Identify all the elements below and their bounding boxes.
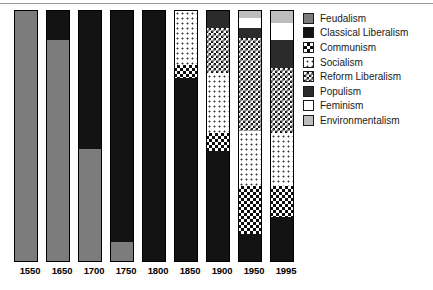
legend-label-socialism: Socialism [320,57,363,68]
legend-item-communism[interactable]: Communism [303,40,431,55]
bar-1650 [46,10,70,262]
segment-classical-liberalism [270,217,294,262]
plot-area [14,10,302,262]
bar-group [14,10,302,262]
segment-reform-liberalism [238,38,262,131]
x-tick-1550: 1550 [14,264,46,280]
segment-communism [238,186,262,234]
segment-populism [238,28,262,38]
segment-communism [206,133,230,151]
bar-column-1800 [142,10,174,262]
segment-socialism [270,133,294,186]
x-tick-1750: 1750 [110,264,142,280]
bar-1800 [142,10,166,262]
segment-feudalism [14,10,38,262]
legend-label-feminism: Feminism [320,100,363,111]
legend-item-environmentalism[interactable]: Environmentalism [303,113,431,128]
segment-feudalism [78,149,102,262]
bar-1850 [174,10,198,262]
top-divider [0,3,433,4]
legend-swatch-feminism-icon [303,100,314,111]
segment-classical-liberalism [46,10,70,40]
segment-socialism [174,10,198,65]
segment-reform-liberalism [270,68,294,134]
x-tick-1700: 1700 [78,264,110,280]
bar-1900 [206,10,230,262]
stacked-bar-chart: 155016501700175018001850190019501995 Feu… [0,0,433,290]
legend-label-feudalism: Feudalism [320,13,366,24]
bar-1700 [78,10,102,262]
segment-environmentalism [270,10,294,23]
legend-swatch-communism-icon [303,42,314,53]
legend-item-feudalism[interactable]: Feudalism [303,11,431,26]
segment-reform-liberalism [206,28,230,73]
bar-column-1900 [206,10,238,262]
bar-column-1750 [110,10,142,262]
x-tick-1995: 1995 [270,264,302,280]
bar-1750 [110,10,134,262]
legend-swatch-environmentalism-icon [303,115,314,126]
legend-item-populism[interactable]: Populism [303,84,431,99]
legend-swatch-reform-liberalism-icon [303,71,314,82]
bar-column-1995 [270,10,302,262]
segment-environmentalism [238,10,262,18]
segment-communism [174,65,198,78]
bar-1950 [238,10,262,262]
segment-socialism [238,131,262,186]
x-tick-1800: 1800 [142,264,174,280]
segment-feminism [238,18,262,28]
bar-column-1950 [238,10,270,262]
segment-classical-liberalism [174,78,198,262]
x-tick-1650: 1650 [46,264,78,280]
chart-legend: FeudalismClassical LiberalismCommunismSo… [303,11,431,128]
segment-classical-liberalism [78,10,102,149]
segment-feudalism [46,40,70,262]
legend-label-communism: Communism [320,42,376,53]
bar-column-1650 [46,10,78,262]
bar-column-1550 [14,10,46,262]
legend-item-feminism[interactable]: Feminism [303,99,431,114]
bar-column-1700 [78,10,110,262]
legend-label-reform-liberalism: Reform Liberalism [320,71,401,82]
segment-feudalism [110,242,134,262]
segment-classical-liberalism [238,234,262,262]
legend-label-populism: Populism [320,86,361,97]
legend-swatch-feudalism-icon [303,13,314,24]
segment-classical-liberalism [142,10,166,262]
legend-swatch-socialism-icon [303,57,314,68]
bar-1550 [14,10,38,262]
segment-classical-liberalism [110,10,134,242]
legend-item-reform-liberalism[interactable]: Reform Liberalism [303,69,431,84]
x-tick-1950: 1950 [238,264,270,280]
bar-1995 [270,10,294,262]
legend-label-classical-liberalism: Classical Liberalism [320,27,408,38]
segment-classical-liberalism [206,151,230,262]
legend-item-classical-liberalism[interactable]: Classical Liberalism [303,26,431,41]
segment-feminism [270,23,294,41]
legend-item-socialism[interactable]: Socialism [303,55,431,70]
segment-socialism [206,73,230,133]
x-tick-1850: 1850 [174,264,206,280]
x-tick-1900: 1900 [206,264,238,280]
legend-swatch-classical-liberalism-icon [303,27,314,38]
segment-populism [206,10,230,28]
legend-label-environmentalism: Environmentalism [320,115,399,126]
legend-swatch-populism-icon [303,86,314,97]
segment-communism [270,186,294,216]
x-axis-tick-labels: 155016501700175018001850190019501995 [14,264,302,280]
bar-column-1850 [174,10,206,262]
segment-populism [270,40,294,68]
